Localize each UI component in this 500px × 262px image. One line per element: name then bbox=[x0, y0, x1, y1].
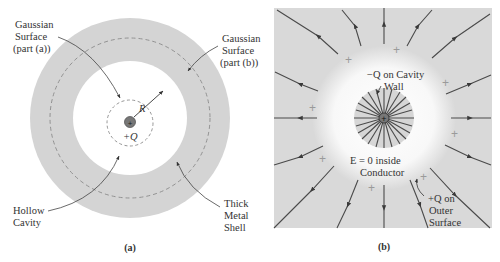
svg-text:+: + bbox=[420, 170, 427, 184]
svg-text:+: + bbox=[345, 53, 352, 67]
svg-text:+: + bbox=[442, 76, 449, 90]
outer-surface-line1: +Q on bbox=[428, 193, 455, 204]
hollow-cavity-line1: Hollow bbox=[13, 205, 45, 216]
gaussian-a-line3: (part (a)) bbox=[13, 43, 51, 55]
inner-charge-symbol: + bbox=[381, 114, 386, 124]
gaussian-b-line3: (part (b)) bbox=[220, 57, 259, 69]
gaussian-b-line2: Surface bbox=[222, 45, 254, 56]
svg-text:+: + bbox=[368, 181, 375, 195]
svg-text:+: + bbox=[393, 43, 400, 57]
panel-a: + R +Q Gaussian Surface (part (a)) Gauss… bbox=[13, 18, 261, 254]
cavity-wall-line1: −Q on Cavity bbox=[367, 69, 425, 80]
svg-text:+: + bbox=[319, 152, 326, 166]
charge-plus-symbol: + bbox=[128, 119, 133, 128]
thick-shell-line3: Shell bbox=[224, 222, 246, 233]
svg-text:+: + bbox=[451, 127, 458, 141]
panel-b: + + + + + + + + bbox=[274, 8, 492, 253]
cavity-wall-line2: Wall bbox=[384, 81, 404, 92]
e-zero-line1: E = 0 inside bbox=[350, 155, 401, 166]
e-zero-line2: Conductor bbox=[360, 167, 405, 178]
charge-label: +Q bbox=[123, 131, 138, 142]
outer-surface-line2: Outer bbox=[429, 205, 453, 216]
gaussian-b-line1: Gaussian bbox=[222, 33, 261, 44]
thick-shell-line1: Thick bbox=[224, 198, 249, 209]
gaussian-a-line1: Gaussian bbox=[15, 19, 54, 30]
hollow-cavity-line2: Cavity bbox=[13, 217, 42, 228]
thick-shell-line2: Metal bbox=[224, 210, 249, 221]
figure-canvas: + R +Q Gaussian Surface (part (a)) Gauss… bbox=[0, 0, 500, 262]
panel-a-caption: (a) bbox=[124, 242, 136, 254]
gaussian-a-line2: Surface bbox=[15, 31, 47, 42]
outer-surface-line3: Surface bbox=[429, 217, 461, 228]
radius-label: R bbox=[138, 103, 146, 114]
svg-text:+: + bbox=[309, 101, 316, 115]
panel-b-caption: (b) bbox=[378, 241, 390, 253]
